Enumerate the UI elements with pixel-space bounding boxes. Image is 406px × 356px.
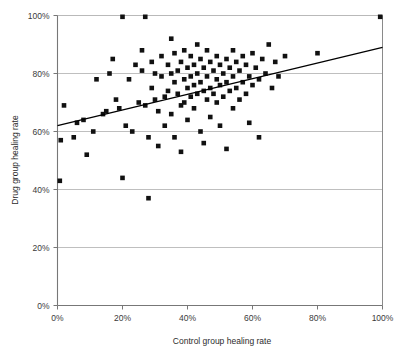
data-point bbox=[198, 129, 203, 134]
y-axis-title: Drug group healing rate bbox=[10, 115, 20, 205]
data-point bbox=[172, 80, 177, 85]
data-point bbox=[120, 15, 125, 20]
data-point bbox=[214, 54, 219, 59]
data-point bbox=[231, 106, 236, 111]
data-point bbox=[221, 94, 226, 99]
data-point bbox=[201, 65, 206, 70]
x-tick-label-100: 100% bbox=[372, 313, 394, 323]
data-point bbox=[188, 54, 193, 59]
data-point bbox=[227, 65, 232, 70]
data-point bbox=[188, 74, 193, 79]
data-point bbox=[192, 63, 197, 68]
data-point bbox=[127, 77, 132, 82]
data-point bbox=[169, 71, 174, 76]
data-point bbox=[179, 60, 184, 65]
x-axis-title: Control group healing rate bbox=[173, 336, 272, 346]
data-point bbox=[71, 135, 76, 140]
data-point bbox=[270, 86, 275, 91]
data-point bbox=[192, 83, 197, 88]
data-point bbox=[175, 68, 180, 73]
data-point bbox=[205, 48, 210, 53]
data-point bbox=[214, 77, 219, 82]
data-point bbox=[143, 15, 148, 20]
data-point bbox=[214, 100, 219, 105]
data-point bbox=[224, 80, 229, 85]
data-point bbox=[149, 60, 154, 65]
data-point bbox=[192, 106, 197, 111]
data-point bbox=[250, 83, 255, 88]
y-tick-label-100: 100% bbox=[28, 11, 50, 21]
data-point bbox=[224, 57, 229, 62]
data-point bbox=[179, 150, 184, 155]
gridlines bbox=[58, 16, 383, 248]
data-point bbox=[201, 141, 206, 146]
data-point bbox=[247, 74, 252, 79]
data-point bbox=[172, 51, 177, 56]
x-tick-label-40: 40% bbox=[179, 313, 196, 323]
data-point bbox=[237, 68, 242, 73]
data-point bbox=[244, 63, 249, 68]
data-point bbox=[224, 147, 229, 152]
data-point bbox=[250, 51, 255, 56]
data-point bbox=[84, 152, 89, 157]
data-point bbox=[58, 179, 63, 184]
data-point bbox=[169, 112, 174, 117]
data-point bbox=[315, 51, 320, 56]
data-point bbox=[198, 80, 203, 85]
data-point bbox=[211, 68, 216, 73]
data-point bbox=[266, 42, 271, 47]
data-point bbox=[166, 63, 171, 68]
data-point bbox=[231, 74, 236, 79]
data-point bbox=[123, 123, 128, 128]
data-point bbox=[133, 63, 138, 68]
data-point bbox=[140, 68, 145, 73]
data-point bbox=[185, 118, 190, 123]
x-tick-label-80: 80% bbox=[309, 313, 326, 323]
data-point bbox=[146, 196, 151, 201]
data-point bbox=[218, 63, 223, 68]
data-point bbox=[211, 92, 216, 97]
data-point bbox=[182, 100, 187, 105]
data-point bbox=[260, 57, 265, 62]
data-point bbox=[120, 176, 125, 181]
data-point bbox=[185, 65, 190, 70]
data-point bbox=[195, 71, 200, 76]
data-point bbox=[107, 71, 112, 76]
x-tick-label-20: 20% bbox=[114, 313, 131, 323]
data-point bbox=[247, 121, 252, 126]
data-point bbox=[378, 15, 383, 20]
data-point bbox=[221, 71, 226, 76]
data-point bbox=[149, 86, 154, 91]
data-point bbox=[195, 42, 200, 47]
x-axis-tick-labels: 0%20%40%60%80%100% bbox=[51, 313, 393, 323]
data-point bbox=[231, 48, 236, 53]
y-tick-label-20: 20% bbox=[32, 243, 49, 253]
data-point bbox=[156, 109, 161, 114]
data-point bbox=[159, 54, 164, 59]
data-point bbox=[234, 60, 239, 65]
data-point bbox=[110, 57, 115, 62]
data-point bbox=[153, 71, 158, 76]
data-point bbox=[162, 94, 167, 99]
data-point bbox=[58, 138, 63, 143]
data-point bbox=[185, 86, 190, 91]
data-point bbox=[198, 57, 203, 62]
data-point bbox=[257, 135, 262, 140]
data-point bbox=[208, 60, 213, 65]
data-point bbox=[175, 92, 180, 97]
y-tick-label-40: 40% bbox=[32, 185, 49, 195]
data-point bbox=[140, 48, 145, 53]
data-point bbox=[169, 36, 174, 41]
data-point bbox=[276, 74, 281, 79]
trend-line-segment bbox=[58, 47, 383, 125]
data-point bbox=[156, 144, 161, 149]
scatter-plot-figure: 0%20%40%60%80%100% 0%20%40%60%80%100% Co… bbox=[0, 0, 406, 356]
data-point bbox=[208, 115, 213, 120]
data-point bbox=[182, 48, 187, 53]
data-point bbox=[94, 77, 99, 82]
data-point bbox=[253, 65, 258, 70]
data-point bbox=[62, 103, 67, 108]
data-point bbox=[136, 100, 141, 105]
x-tick-label-0: 0% bbox=[51, 313, 64, 323]
y-axis-tick-labels: 0%20%40%60%80%100% bbox=[28, 11, 50, 311]
